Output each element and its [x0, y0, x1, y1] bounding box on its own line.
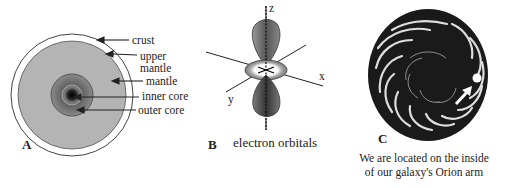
electron-orbital-diagram — [206, 6, 323, 130]
label-upper-mantle-line2: mantle — [140, 62, 171, 74]
panel-letter-b: B — [208, 137, 217, 153]
axis-label-y: y — [228, 93, 234, 105]
label-upper-mantle-line1: upper — [140, 50, 166, 62]
caption-galaxy-line1: We are located on the inside — [329, 151, 508, 165]
label-crust: crust — [132, 34, 154, 46]
label-outer-core: outer core — [138, 104, 184, 116]
label-inner-core: inner core — [142, 90, 188, 102]
panel-letter-a: A — [22, 137, 31, 153]
axis-label-z: z — [269, 2, 274, 14]
axis-label-x: x — [319, 70, 325, 82]
panel-letter-c: C — [378, 131, 387, 147]
sun-location-marker — [473, 74, 482, 83]
spiral-galaxy — [368, 9, 488, 141]
inner-core-layer — [65, 88, 79, 102]
caption-electron-orbitals: electron orbitals — [233, 135, 317, 151]
caption-galaxy-line2: of our galaxy's Orion arm — [329, 165, 508, 179]
label-mantle: mantle — [146, 75, 177, 87]
